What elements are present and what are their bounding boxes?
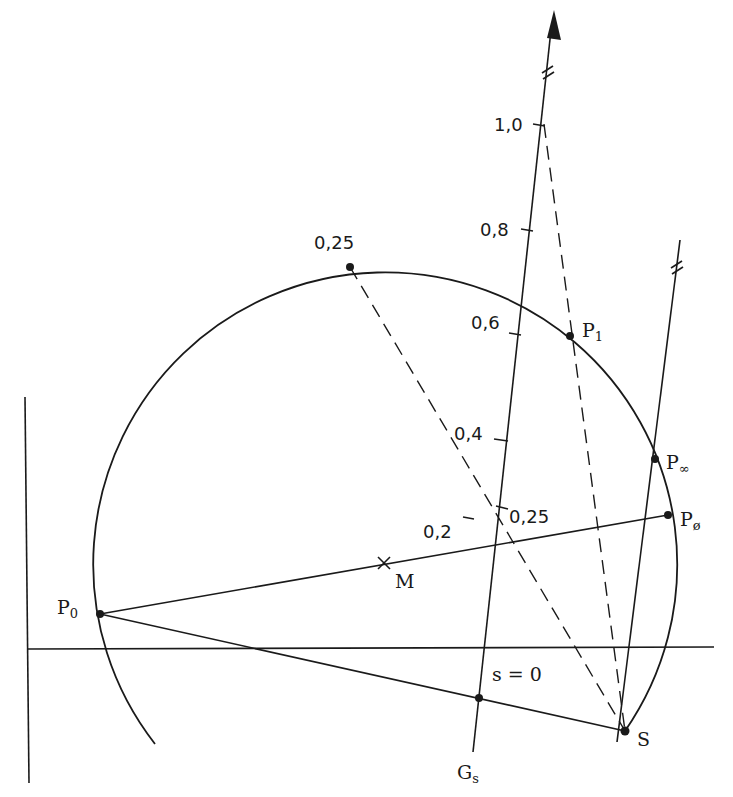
tick-0.2 [463,517,474,519]
tick-label-0.2: 0,2 [423,523,452,541]
point-p0 [96,610,104,618]
tick-0.25 [496,506,508,509]
break-mark [543,72,554,79]
diameter-line [100,515,668,614]
horizontal-axis [27,647,714,649]
label-pphi: Pø [680,510,701,532]
point-p1 [566,332,574,340]
tick-label-0.4: 0,4 [454,425,483,443]
dashed-1.0-to-s [544,124,625,731]
s-pinf-line [617,240,680,742]
circle-diagram: P0 M P1 P∞ Pø S 0,25 Gs s = 0 0,2 0,4 0,… [0,0,733,797]
tick-1.0 [533,124,545,126]
label-m: M [395,572,414,591]
break-mark [672,267,683,274]
label-s: S [637,730,650,749]
tick-label-0.6: 0,6 [471,314,500,332]
point-s0 [475,694,483,702]
tick-0.4 [494,439,508,441]
tick-0.8 [521,229,533,231]
label-p1: P1 [582,321,603,343]
diagram-lines [0,0,733,797]
label-intersection-025: 0,25 [509,508,549,526]
point-pinf [651,455,659,463]
arrow-head-icon [547,10,561,40]
vertical-axis [25,397,29,783]
label-gs: Gs [457,763,479,785]
slip-line-gs [473,30,551,752]
label-s-zero: s = 0 [492,665,542,684]
label-pinf: P∞ [666,453,690,475]
label-circle-025: 0,25 [314,234,354,252]
tick-label-0.8: 0,8 [480,221,509,239]
point-s [621,727,630,736]
point-025 [346,263,354,271]
label-p0: P0 [57,598,78,620]
tick-label-1.0: 1,0 [494,116,523,134]
tick-0.6 [509,333,521,335]
point-pphi [664,511,672,519]
circle-arc [93,272,677,744]
p0-s-line [100,614,625,731]
